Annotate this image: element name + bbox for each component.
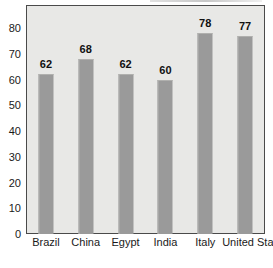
bar-group: 60 xyxy=(146,5,186,234)
bar xyxy=(158,80,173,234)
cut-off-title-remnant xyxy=(150,0,262,2)
y-axis-tick-label: 0 xyxy=(15,229,21,240)
x-axis: BrazilChinaEgyptIndiaItalyUnited States xyxy=(26,236,265,268)
y-axis-tick-label: 40 xyxy=(9,126,21,137)
bar xyxy=(198,33,213,234)
y-axis-tick-label: 30 xyxy=(9,151,21,162)
bar-value-label: 60 xyxy=(159,65,171,76)
x-axis-category-label: United States xyxy=(222,236,268,249)
bar-group: 78 xyxy=(185,5,225,234)
bar-group: 62 xyxy=(106,5,146,234)
y-axis-tick-label: 50 xyxy=(9,100,21,111)
y-axis-tick-label: 10 xyxy=(9,203,21,214)
bars-layer: 626862607877 xyxy=(26,5,265,234)
y-axis-tick-label: 70 xyxy=(9,48,21,59)
y-axis-tick-label: 60 xyxy=(9,74,21,85)
bar-value-label: 68 xyxy=(80,44,92,55)
y-axis-tick-label: 20 xyxy=(9,177,21,188)
y-axis: 01020304050607080 xyxy=(0,0,24,268)
bar-group: 77 xyxy=(225,5,265,234)
bar-value-label: 77 xyxy=(239,21,251,32)
bar xyxy=(118,74,133,234)
bar xyxy=(238,36,253,234)
bar xyxy=(78,59,93,234)
bar-value-label: 78 xyxy=(199,18,211,29)
bar-group: 62 xyxy=(26,5,66,234)
bar-value-label: 62 xyxy=(40,59,52,70)
bar xyxy=(38,74,53,234)
bar-value-label: 62 xyxy=(119,59,131,70)
bar-chart: 01020304050607080 626862607877 BrazilChi… xyxy=(0,0,273,268)
y-axis-tick-label: 80 xyxy=(9,23,21,34)
bar-group: 68 xyxy=(66,5,106,234)
